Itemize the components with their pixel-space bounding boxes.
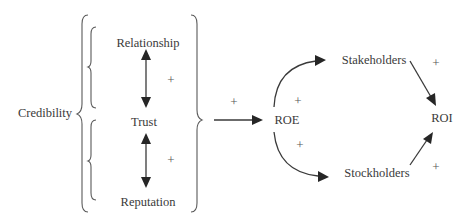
polarity-roe-stakeholders: + xyxy=(294,93,301,108)
polarity-credibility-roe: + xyxy=(230,94,237,109)
upper-inner-brace xyxy=(88,27,96,108)
trust-reputation-arrow xyxy=(141,133,151,188)
arrowhead-right-icon xyxy=(318,171,329,182)
node-stockholders: Stockholders xyxy=(344,166,409,180)
lower-inner-brace xyxy=(88,120,96,200)
credibility-right-brace xyxy=(191,15,202,212)
node-relationship: Relationship xyxy=(116,36,179,50)
arrowhead-icon xyxy=(423,132,433,144)
arrowhead-up-icon xyxy=(141,133,151,144)
polarity-trust-reputation: + xyxy=(167,152,174,167)
arrowhead-down-icon xyxy=(141,177,151,188)
arrowhead-down-icon xyxy=(141,97,151,108)
node-stakeholders: Stakeholders xyxy=(342,53,407,67)
stockholders-roi-arrow xyxy=(410,132,433,165)
polarity-roe-stockholders: + xyxy=(296,137,303,152)
polarity-stockholders-roi: + xyxy=(432,159,439,174)
polarity-stakeholders-roi: + xyxy=(432,55,439,70)
relationship-trust-arrow xyxy=(141,49,151,108)
node-trust: Trust xyxy=(131,115,157,129)
arrowhead-right-icon xyxy=(315,55,326,66)
credibility-roe-arrow xyxy=(214,115,263,125)
arrowhead-up-icon xyxy=(141,49,151,60)
polarity-relationship-trust: + xyxy=(167,72,174,87)
node-reputation: Reputation xyxy=(121,195,177,209)
node-roe: ROE xyxy=(275,113,300,127)
arrowhead-icon xyxy=(426,93,436,106)
credibility-roi-diagram: Credibility Relationship + Trust + Reput… xyxy=(0,0,461,222)
node-credibility: Credibility xyxy=(18,106,73,120)
arrowhead-right-icon xyxy=(252,115,263,125)
credibility-left-brace xyxy=(77,15,88,212)
node-roi: ROI xyxy=(431,111,453,125)
